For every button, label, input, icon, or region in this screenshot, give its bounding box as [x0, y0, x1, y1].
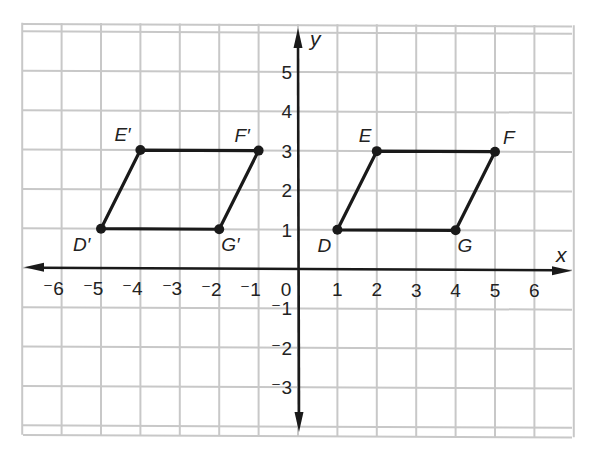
x-tick-label: ⁻5 — [83, 278, 104, 299]
y-axis-label: y — [308, 27, 322, 50]
point-label: F′ — [235, 125, 252, 146]
point-label: G′ — [221, 234, 241, 255]
y-tick-label: 4 — [281, 101, 292, 122]
grid-line-horizontal — [23, 347, 572, 350]
grid-border — [23, 435, 572, 438]
y-tick-label: 2 — [281, 180, 292, 201]
x-axis-label: x — [555, 243, 568, 266]
y-tick-label: ⁻3 — [271, 377, 292, 398]
point-label: E — [359, 125, 372, 146]
point-label: E′ — [114, 124, 132, 145]
y-axis — [298, 40, 299, 420]
y-tick-label: 5 — [281, 62, 292, 83]
x-axis-left-arrow-icon — [24, 263, 44, 272]
y-tick-label: 1 — [281, 220, 292, 241]
y-tick-label: ⁻2 — [271, 338, 292, 359]
y-axis-down-arrow-icon — [295, 412, 304, 432]
point-dot — [490, 147, 500, 157]
y-tick-label: 3 — [281, 141, 292, 162]
point-dot — [214, 224, 224, 234]
origin-label: 0 — [281, 279, 292, 300]
y-axis-up-arrow-icon — [294, 28, 303, 48]
point-dot — [372, 146, 382, 156]
tick-labels: xy⁻6⁻5⁻4⁻3⁻2⁻1123456054321⁻1⁻2⁻3 — [43, 27, 568, 398]
point-dot — [451, 225, 461, 235]
coordinate-plane-figure: xy⁻6⁻5⁻4⁻3⁻2⁻1123456054321⁻1⁻2⁻3 DEFGD′E… — [0, 0, 594, 456]
x-axis-right-arrow-icon — [552, 266, 572, 275]
grid-border — [23, 24, 572, 27]
point-label: D — [317, 235, 331, 256]
x-tick-label: 3 — [411, 280, 422, 301]
x-tick-label: 2 — [372, 279, 383, 300]
x-tick-label: ⁻2 — [201, 279, 222, 300]
point-label: D′ — [73, 234, 92, 255]
grid-line-horizontal — [23, 386, 572, 389]
x-tick-label: 1 — [332, 279, 343, 300]
x-tick-label: ⁻4 — [122, 278, 143, 299]
point-dot — [135, 145, 145, 155]
y-tick-label: ⁻1 — [271, 298, 292, 319]
x-tick-label: ⁻1 — [240, 279, 261, 300]
grid-line-horizontal — [23, 425, 572, 428]
x-tick-label: 4 — [450, 280, 461, 301]
point-dot — [332, 225, 342, 235]
point-dot — [254, 146, 264, 156]
point-dot — [96, 224, 106, 234]
x-tick-label: ⁻6 — [43, 278, 64, 299]
x-tick-label: 6 — [529, 280, 540, 301]
x-tick-label: ⁻3 — [162, 278, 183, 299]
point-label: G — [458, 235, 473, 256]
point-label: F — [503, 127, 516, 148]
coordinate-grid: xy⁻6⁻5⁻4⁻3⁻2⁻1123456054321⁻1⁻2⁻3 DEFGD′E… — [0, 0, 594, 456]
x-tick-label: 5 — [490, 280, 501, 301]
